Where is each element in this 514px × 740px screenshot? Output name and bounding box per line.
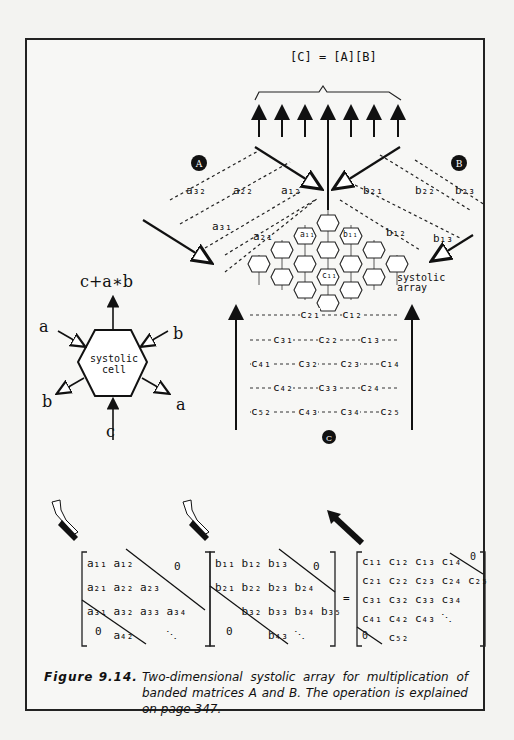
caption-text: Two-dimensional systolic array for multi…: [142, 669, 468, 717]
svg-text:C: C: [326, 434, 332, 443]
c-row-5a: c₅₂: [251, 405, 271, 418]
c-row-3b: c₃₂: [298, 357, 318, 370]
equals-sign: =: [343, 592, 350, 605]
cell-output-label: c+a∗b: [80, 272, 133, 291]
matrix-b-zero-upper: 0: [313, 560, 320, 573]
c-row-4b: c₃₃: [318, 381, 338, 394]
c-row-1: c₂₁: [300, 308, 320, 321]
cell-input-c: c: [106, 422, 115, 441]
c-row-3d: c₁₄: [380, 357, 400, 370]
matrix-b-zero-lower: 0: [226, 625, 233, 638]
cell-label: systoliccell: [83, 353, 145, 375]
caption-label: Figure 9.14.: [44, 669, 138, 685]
equation-label: [C] = [A][B]: [290, 50, 377, 64]
svg-text:A: A: [195, 159, 203, 169]
svg-text:B: B: [456, 159, 463, 169]
brace-icon: [255, 86, 401, 100]
matrix-c-arrow-icon: [327, 510, 362, 543]
arrow-a-top: [255, 147, 320, 188]
systolic-array-grid: [248, 210, 408, 311]
marker-a: A: [191, 155, 207, 171]
c-row-2c: c₁₃: [360, 333, 380, 346]
label-a22: a₂₂: [233, 184, 253, 197]
label-b22: b₂₂: [415, 184, 435, 197]
c-row-3a: c₄₁: [251, 357, 271, 370]
matrix-c-zero-upper: 0: [470, 551, 476, 562]
c-row-4c: c₂₄: [360, 381, 380, 394]
c-row-5c: c₃₄: [340, 405, 360, 418]
matrix-c: c₁₁ c₁₂ c₁₃ c₁₄c₂₁ c₂₂ c₂₃ c₂₄ c₂₅c₃₁ c₃…: [362, 552, 488, 647]
a-stream-lines: [170, 150, 318, 272]
label-b13: b₁₃: [433, 232, 453, 245]
c-row-1b: c₁₂: [342, 308, 362, 321]
label-a12: a₁₂: [281, 184, 301, 197]
cell-c11: c₁₁: [322, 271, 336, 280]
cell-input-a: a: [39, 317, 49, 336]
arrow-b-top: [335, 147, 400, 188]
matrix-c-zero-lower: 0: [362, 630, 368, 641]
label-a21: a₂₁: [253, 230, 273, 243]
marker-b: B: [451, 155, 467, 171]
matrix-a: a₁₁ a₁₂a₂₁ a₂₂ a₂₃a₃₁ a₃₂ a₃₃ a₃₄ a₄₂ ⋱: [87, 552, 186, 648]
label-b21: b₂₁: [363, 184, 383, 197]
cell-input-b: b: [173, 324, 183, 343]
matrix-b-arrow-icon: [183, 500, 209, 541]
c-row-5b: c₄₃: [298, 405, 318, 418]
matrix-a-zero-upper: 0: [174, 560, 181, 573]
c-stream-lines: [250, 315, 400, 412]
label-b23: b₂₃: [455, 184, 475, 197]
matrix-a-right-bracket: [205, 552, 210, 646]
label-a31: a₃₁: [212, 220, 232, 233]
cell-b11: b₁₁: [343, 230, 357, 239]
c-row-2a: c₃₁: [273, 333, 293, 346]
matrix-a-zero-lower: 0: [95, 625, 102, 638]
matrix-b: b₁₁ b₁₂ b₁₃b₂₁ b₂₂ b₂₃ b₂₄ b₃₂ b₃₃ b₃₄ b…: [215, 552, 341, 648]
c-row-5d: c₂₅: [380, 405, 400, 418]
c-row-3c: c₂₃: [340, 357, 360, 370]
label-b12: b₁₂: [386, 226, 406, 239]
marker-c: C: [322, 430, 336, 444]
matrix-a-arrow-icon: [52, 500, 78, 541]
array-label: systolicarray: [397, 273, 445, 293]
c-row-4a: c₄₂: [273, 381, 293, 394]
c-row-2b: c₂₂: [318, 333, 338, 346]
arrow-a-left: [143, 220, 210, 262]
cell-a11: a₁₁: [300, 230, 314, 239]
label-a32: aa32₃₂: [186, 184, 206, 197]
cell-output-b: b: [42, 392, 52, 411]
cell-output-a: a: [176, 395, 186, 414]
